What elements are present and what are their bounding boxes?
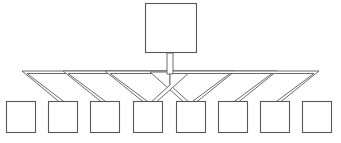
hub-stem [167,53,173,74]
leaf-node-6[interactable] [219,102,248,133]
leaf-node-5[interactable] [177,102,206,133]
leaf-node-4[interactable] [134,102,163,133]
link-hub-to-leaf-1[interactable] [22,71,170,104]
hub-node[interactable] [146,4,197,53]
topology-diagram [0,0,341,143]
leaf-layer [7,102,332,133]
leaf-node-7[interactable] [261,102,290,133]
link-layer [22,71,319,104]
leaf-node-1[interactable] [7,102,36,133]
leaf-node-8[interactable] [303,102,332,133]
leaf-node-2[interactable] [49,102,78,133]
topology-canvas [0,0,341,143]
link-hub-to-leaf-8[interactable] [170,71,319,104]
leaf-node-3[interactable] [91,102,120,133]
